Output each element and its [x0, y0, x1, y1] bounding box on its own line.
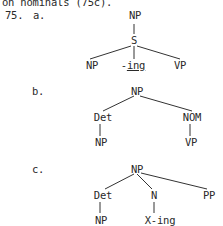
tree-a-label: a.	[33, 10, 45, 21]
node-np-root: NP	[131, 164, 143, 175]
branch-np-det	[103, 96, 134, 111]
node-det: Det	[94, 112, 112, 123]
tree-c-label: c.	[32, 164, 44, 175]
node-det: Det	[94, 190, 112, 201]
node-np-root: NP	[131, 86, 143, 97]
branch-np-det	[105, 174, 134, 189]
intro-text: on nominals (75c).	[2, 0, 112, 8]
branch-np-nom	[140, 96, 192, 111]
tree-b-label: b.	[32, 86, 44, 97]
node-s: S	[131, 35, 137, 46]
node-vp: VP	[174, 60, 186, 71]
node-np-root: NP	[129, 10, 141, 21]
example-number: 75.	[5, 10, 23, 21]
node-ing: -ing	[121, 60, 146, 71]
branch-np-n	[137, 174, 152, 189]
ing-underlined: ing	[127, 59, 145, 71]
node-np-child: NP	[95, 137, 107, 148]
node-np-child: NP	[95, 215, 107, 226]
branch-s-np	[90, 46, 131, 59]
node-np-left: NP	[86, 60, 98, 71]
node-n: N	[151, 190, 157, 201]
branch-s-vp	[137, 46, 180, 59]
node-pp: PP	[203, 190, 215, 201]
node-nom: NOM	[183, 112, 201, 123]
branch-np-pp	[141, 173, 207, 189]
node-x-ing: X-ing	[145, 215, 176, 226]
node-vp-child: VP	[185, 137, 197, 148]
